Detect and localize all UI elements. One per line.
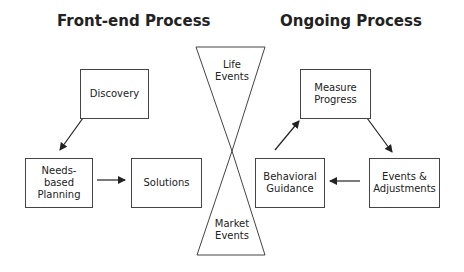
node-behavioral-guidance-label: Behavioral Guidance [263,171,316,195]
arrow-measure-to-events [367,118,392,152]
arrow-guidance-to-measure [275,121,299,150]
node-needs-based-planning-label: Needs- based Planning [37,165,80,201]
diagram-canvas: Front-end Process Ongoing Process Discov… [0,0,464,272]
node-discovery-label: Discovery [90,88,139,100]
node-measure-progress: Measure Progress [300,69,371,119]
node-needs-based-planning: Needs- based Planning [25,158,93,208]
ongoing-process-title: Ongoing Process [280,12,422,30]
front-end-process-title: Front-end Process [57,12,211,30]
node-events-adjustments: Events & Adjustments [369,158,440,208]
node-behavioral-guidance: Behavioral Guidance [255,158,325,208]
arrow-discovery-to-planning [60,118,83,150]
node-measure-progress-label: Measure Progress [314,82,357,106]
node-solutions: Solutions [131,158,202,208]
market-events-label: Market Events [204,218,260,242]
node-events-adjustments-label: Events & Adjustments [373,171,436,195]
node-discovery: Discovery [80,69,149,119]
node-solutions-label: Solutions [144,177,190,189]
life-events-label: Life Events [206,59,258,83]
